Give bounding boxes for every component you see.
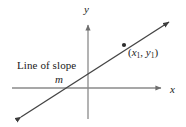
point-x1-y1-label: (x1, y1) xyxy=(128,47,158,58)
slope-m-symbol: m xyxy=(55,74,63,85)
coords-x-subscript: 1 xyxy=(137,51,141,60)
coords-y-subscript: 1 xyxy=(151,51,155,60)
coords-y-symbol: y xyxy=(146,46,151,58)
y-axis-label: y xyxy=(84,4,89,15)
x-axis-label: x xyxy=(170,84,175,95)
coords-x-symbol: x xyxy=(132,46,137,58)
line-of-slope-caption: Line of slope xyxy=(17,60,76,71)
coordinate-plane-figure: x y Line of slope m (x1, y1) xyxy=(0,0,186,127)
point-x1-y1-marker xyxy=(122,43,126,47)
coords-close-paren: ) xyxy=(154,46,158,58)
